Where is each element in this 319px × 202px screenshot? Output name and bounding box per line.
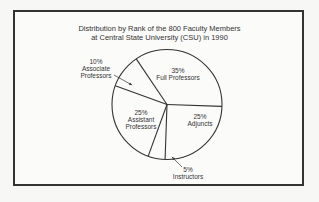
label-pct: 25% xyxy=(123,109,159,116)
label-adjuncts: 25% Adjuncts xyxy=(180,113,220,127)
label-name: Full Professors xyxy=(153,74,203,81)
label-pct: 5% xyxy=(168,166,208,173)
label-name: Professors xyxy=(123,123,159,130)
label-name: Instructors xyxy=(168,173,208,180)
label-name: Professors xyxy=(76,72,116,79)
label-associate-professors: 10% Associate Professors xyxy=(76,58,116,79)
label-pct: 25% xyxy=(180,113,220,120)
label-assistant-professors: 25% Assistant Professors xyxy=(123,109,159,130)
label-pct: 35% xyxy=(153,67,203,74)
label-pct: 10% xyxy=(76,58,116,65)
label-full-professors: 35% Full Professors xyxy=(153,67,203,81)
label-instructors: 5% Instructors xyxy=(168,166,208,180)
label-name: Assistant xyxy=(123,116,159,123)
pie-chart xyxy=(0,0,319,202)
label-name: Adjuncts xyxy=(180,120,220,127)
label-name: Associate xyxy=(76,65,116,72)
